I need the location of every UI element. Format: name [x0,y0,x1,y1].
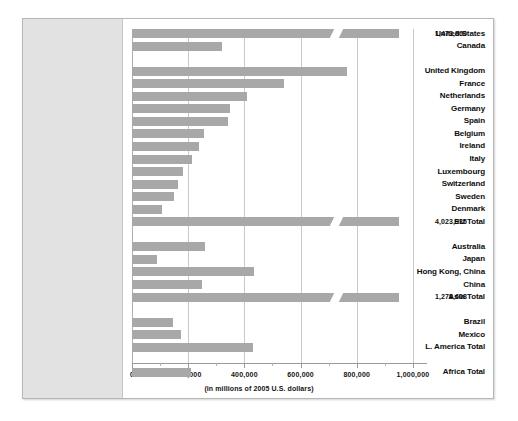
chart-screenshot: 0200,000400,000600,000800,0001,000,000 U… [0,0,518,421]
x-tick-1000000 [413,363,414,368]
bar-italy [132,155,192,164]
category-label-spain: Spain [464,116,485,125]
value-label-asia-total: 1,278,608 [435,293,467,300]
bar-africa-total [132,368,191,377]
bar-ireland [132,142,199,151]
category-label-canada: Canada [457,41,485,50]
category-label-brazil: Brazil [464,317,485,326]
bar-japan [132,255,157,264]
bar-switzerland [132,180,178,189]
bar-hong-kong-china [132,267,254,276]
bar-france [132,79,284,88]
category-label-l-america-total: L. America Total [425,342,485,351]
category-label-japan: Japan [462,254,485,263]
category-label-france: France [459,79,485,88]
category-label-africa-total: Africa Total [443,367,485,376]
x-axis-caption: (in millions of 2005 U.S. dollars) [23,385,495,392]
category-label-mexico: Mexico [458,330,485,339]
bar-eu-total [132,217,399,226]
category-label-sweden: Sweden [455,192,485,201]
figure-frame: 0200,000400,000600,000800,0001,000,000 U… [22,18,494,399]
bar-luxembourg [132,167,183,176]
x-tick-label-400000: 400,000 [231,371,258,378]
bar-mexico [132,330,181,339]
gridline-1000000 [413,29,414,363]
category-label-denmark: Denmark [451,204,485,213]
x-tick-label-800000: 800,000 [343,371,370,378]
category-label-switzerland: Switzerland [442,179,485,188]
value-label-united-states: 1,473,860 [435,30,467,37]
category-label-hong-kong-china: Hong Kong, China [417,267,485,276]
bar-sweden [132,192,174,201]
x-tick-minor-300000 [216,363,217,366]
bar-germany [132,104,230,113]
gridline-600000 [301,29,302,363]
x-tick-minor-700000 [329,363,330,366]
bar-l-america-total [132,343,253,352]
gridline-800000 [357,29,358,363]
x-tick-minor-100000 [160,363,161,366]
bar-united-states [132,29,399,38]
value-label-eu-total: 4,023,935 [435,218,467,225]
bar-belgium [132,129,204,138]
bar-netherlands [132,92,247,101]
category-label-germany: Germany [451,104,485,113]
bar-united-kingdom [132,67,347,76]
x-axis-baseline [132,363,427,364]
x-tick-label-1000000: 1,000,000 [396,371,429,378]
category-label-luxembourg: Luxembourg [438,167,485,176]
x-tick-400000 [244,363,245,368]
category-label-china: China [463,280,485,289]
bar-australia [132,242,205,251]
bar-brazil [132,318,173,327]
category-label-united-kingdom: United Kingdom [425,66,485,75]
category-label-australia: Australia [452,242,485,251]
category-label-netherlands: Netherlands [440,91,485,100]
category-label-ireland: Ireland [459,141,485,150]
category-label-belgium: Belgium [454,129,485,138]
bar-denmark [132,205,162,214]
x-tick-800000 [357,363,358,368]
bar-china [132,280,202,289]
x-tick-600000 [301,363,302,368]
bar-canada [132,42,222,51]
bar-spain [132,117,228,126]
bar-asia-total [132,293,399,302]
category-label-italy: Italy [469,154,485,163]
category-label-panel [23,19,123,398]
x-tick-label-600000: 600,000 [287,371,314,378]
x-tick-minor-900000 [385,363,386,366]
x-tick-minor-500000 [272,363,273,366]
